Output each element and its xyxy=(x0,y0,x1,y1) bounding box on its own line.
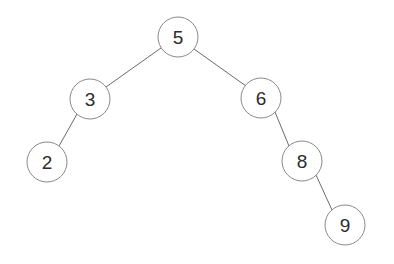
tree-node-9[interactable]: 9 xyxy=(325,205,365,245)
tree-node-6[interactable]: 6 xyxy=(241,78,281,118)
tree-edges-group xyxy=(59,48,332,210)
tree-edge-5-6 xyxy=(194,49,246,86)
tree-diagram-canvas: 536289 xyxy=(0,0,394,264)
tree-node-2[interactable]: 2 xyxy=(27,142,67,182)
tree-node-circle-9[interactable] xyxy=(325,205,365,245)
tree-node-circle-6[interactable] xyxy=(241,78,281,118)
tree-diagram-svg: 536289 xyxy=(0,0,394,264)
tree-node-circle-8[interactable] xyxy=(282,141,322,181)
tree-node-circle-5[interactable] xyxy=(158,17,198,57)
tree-edge-3-2 xyxy=(59,114,77,146)
tree-node-circle-2[interactable] xyxy=(27,142,67,182)
tree-edge-5-3 xyxy=(106,48,161,87)
tree-node-5[interactable]: 5 xyxy=(158,17,198,57)
tree-edge-6-8 xyxy=(275,112,289,146)
tree-node-3[interactable]: 3 xyxy=(70,79,110,119)
tree-nodes-group: 536289 xyxy=(27,17,365,245)
tree-edge-8-9 xyxy=(316,175,332,210)
tree-node-circle-3[interactable] xyxy=(70,79,110,119)
tree-node-8[interactable]: 8 xyxy=(282,141,322,181)
